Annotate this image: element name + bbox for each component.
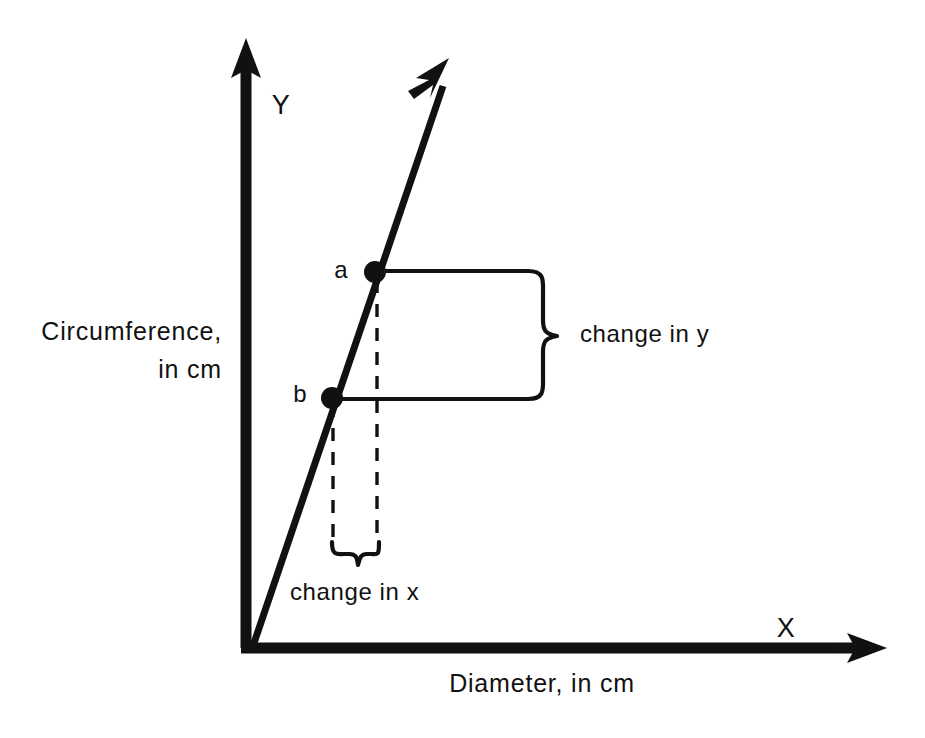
y-axis-arrowhead	[231, 38, 261, 96]
point-b-label: b	[293, 380, 306, 407]
change-in-y-label: change in y	[580, 320, 709, 347]
x-axis-title: Diameter, in cm	[449, 669, 635, 697]
data-line-segment	[253, 86, 443, 646]
change-in-x-droplines	[333, 280, 377, 538]
change-in-x-label: change in x	[290, 578, 419, 605]
y-axis	[231, 38, 261, 648]
change-in-x-brace	[332, 542, 379, 565]
figure-canvas: a b change in y change in x Y X Circumfe…	[0, 0, 925, 738]
y-axis-title-line-1: Circumference,	[41, 317, 222, 345]
x-axis-letter: X	[777, 613, 796, 643]
y-axis-title-line-2: in cm	[158, 355, 222, 383]
point-b: b	[293, 380, 343, 409]
data-line	[253, 58, 449, 646]
change-in-y-brace	[528, 271, 557, 399]
x-axis-arrowhead	[829, 633, 887, 663]
line-graph-diagram: a b change in y change in x Y X Circumfe…	[0, 0, 925, 738]
y-axis-letter: Y	[272, 90, 291, 120]
point-a-label: a	[334, 256, 348, 283]
